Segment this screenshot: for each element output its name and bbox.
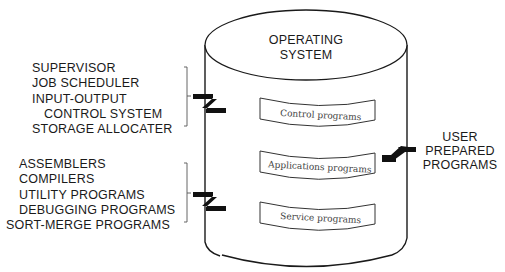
list-item: UTILITY PROGRAMS <box>6 188 178 203</box>
user-label-line-3: PROGRAMS <box>420 158 500 173</box>
cylinder-left-edge <box>205 45 220 256</box>
control-programs-list: SUPERVISOR JOB SCHEDULER INPUT-OUTPUT CO… <box>32 61 172 137</box>
lightning-connector-control-icon <box>193 94 226 113</box>
list-item: INPUT-OUTPUT <box>32 92 172 107</box>
title-line-2: SYSTEM <box>266 48 346 63</box>
list-item: COMPILERS <box>6 172 178 187</box>
bracket-service-group <box>184 163 187 222</box>
list-item: SORT-MERGE PROGRAMS <box>6 218 178 233</box>
bracket-control-group <box>184 67 187 126</box>
list-item: CONTROL SYSTEM <box>32 107 172 122</box>
list-item: DEBUGGING PROGRAMS <box>6 203 178 218</box>
band-service-programs: Service programs <box>260 202 375 230</box>
list-item: STORAGE ALLOCATER <box>32 122 172 137</box>
user-label-line-1: USER <box>420 130 500 145</box>
operating-system-diagram: Control programs Applications programs S… <box>0 0 505 272</box>
lightning-connector-user-icon <box>382 146 416 162</box>
title-line-1: OPERATING <box>266 33 346 48</box>
cylinder-bottom-curve <box>222 255 392 267</box>
band-control-programs: Control programs <box>260 98 375 126</box>
list-item: JOB SCHEDULER <box>32 76 172 91</box>
list-item: SUPERVISOR <box>32 61 172 76</box>
lightning-connector-service-icon <box>193 192 226 211</box>
service-programs-list: ASSEMBLERS COMPILERS UTILITY PROGRAMS DE… <box>6 157 178 233</box>
user-label-line-2: PREPARED <box>420 144 500 159</box>
band-applications-programs: Applications programs <box>260 151 375 179</box>
list-item: ASSEMBLERS <box>6 157 178 172</box>
